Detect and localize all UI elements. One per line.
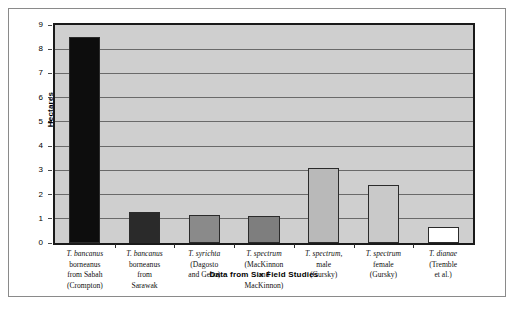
gridline [55, 97, 473, 98]
gridline [55, 146, 473, 147]
gridline [55, 194, 473, 195]
category-label-line: (Dagosto [174, 260, 234, 271]
y-tick-label: 5 [17, 118, 43, 126]
y-tick-label: 7 [17, 69, 43, 77]
bar[interactable] [189, 215, 220, 243]
category-label-line: T. spectrum [234, 249, 294, 260]
bar[interactable] [308, 168, 339, 243]
y-tick-label: 6 [17, 94, 43, 102]
bar[interactable] [69, 37, 100, 243]
category-label-line: T. spectrum, [294, 249, 354, 260]
gridline [55, 170, 473, 171]
category-label-line: borneanus [55, 260, 115, 271]
y-tick-label: 2 [17, 191, 43, 199]
x-tick-mark [174, 244, 175, 248]
category-label-line: borneanus [115, 260, 175, 271]
category-label-line: T. bancanus [55, 249, 115, 260]
y-tick-mark [48, 146, 52, 147]
y-tick-label: 1 [17, 215, 43, 223]
y-tick-label: 0 [17, 239, 43, 247]
bar[interactable] [248, 216, 279, 243]
gridline [55, 73, 473, 74]
y-tick-mark [48, 121, 52, 122]
plot-area [53, 23, 475, 245]
y-tick-label: 8 [17, 45, 43, 53]
y-tick-label: 4 [17, 142, 43, 150]
category-label-line: T. bancanus [115, 249, 175, 260]
category-label-line: T. dianae [413, 249, 473, 260]
gridline [55, 49, 473, 50]
category-label-line: female [354, 260, 414, 271]
x-tick-mark [115, 244, 116, 248]
gridline [55, 121, 473, 122]
category-label-line: (Tremble [413, 260, 473, 271]
x-tick-mark [413, 244, 414, 248]
x-tick-mark [354, 244, 355, 248]
y-tick-mark [48, 73, 52, 74]
y-tick-mark [48, 49, 52, 50]
category-label-line: male [294, 260, 354, 271]
x-axis-title: Data from Six Field Studies [53, 270, 475, 279]
y-tick-label: 3 [17, 166, 43, 174]
y-tick-mark [48, 243, 52, 244]
y-tick-label: 9 [17, 21, 43, 29]
category-label-line: (Crompton) [55, 281, 115, 292]
y-tick-mark [48, 170, 52, 171]
y-tick-mark [48, 194, 52, 195]
category-label-line: T. spectrum [354, 249, 414, 260]
y-tick-mark [48, 218, 52, 219]
y-tick-mark [48, 97, 52, 98]
category-label-line: MacKinnon) [234, 281, 294, 292]
category-label-line: T. syrichta [174, 249, 234, 260]
x-tick-mark [234, 244, 235, 248]
category-label-line: (MacKinnon [234, 260, 294, 271]
x-tick-mark [294, 244, 295, 248]
bar[interactable] [368, 185, 399, 243]
category-label-line: Sarawak [115, 281, 175, 292]
bar[interactable] [428, 227, 459, 243]
y-tick-mark [48, 25, 52, 26]
bar[interactable] [129, 212, 160, 243]
figure-frame: Hectares 0123456789 T. bancanusborneanus… [8, 8, 506, 297]
